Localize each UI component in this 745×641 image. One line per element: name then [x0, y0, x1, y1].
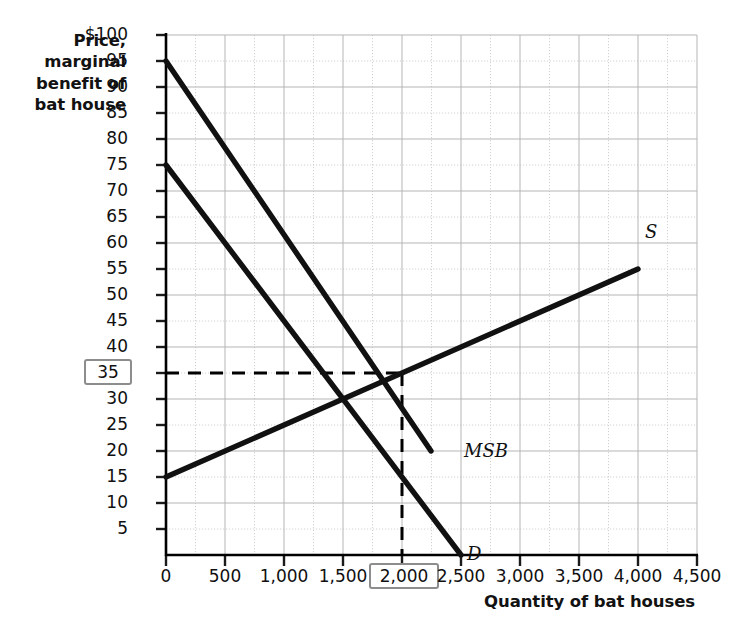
curve-msb — [166, 61, 431, 451]
y-tick-label: 10 — [66, 492, 128, 512]
x-tick-label: 4,500 — [662, 566, 732, 586]
y-tick-label: 30 — [66, 388, 128, 408]
x-tick-label: 1,500 — [308, 566, 378, 586]
y-tick-label: 20 — [66, 440, 128, 460]
y-tick-label: 5 — [66, 518, 128, 538]
y-tick-label: 70 — [66, 180, 128, 200]
y-tick-label: 25 — [66, 414, 128, 434]
y-tick-label: 45 — [66, 310, 128, 330]
y-tick-label: 80 — [66, 128, 128, 148]
curve-label-demand: D — [467, 543, 481, 564]
y-tick-label: 85 — [66, 102, 128, 122]
y-tick-label: 90 — [66, 76, 128, 96]
y-tick-label: 65 — [66, 206, 128, 226]
y-tick-label: 55 — [66, 258, 128, 278]
y-tick-label: 95 — [66, 50, 128, 70]
x-axis-title: Quantity of bat houses — [430, 591, 695, 612]
y-tick-label-highlighted: 35 — [84, 359, 132, 385]
curve-label-supply: S — [645, 221, 657, 242]
y-axis-ticks — [156, 35, 166, 529]
curve-demand — [166, 165, 461, 555]
y-tick-label: 15 — [66, 466, 128, 486]
y-tick-label: 40 — [66, 336, 128, 356]
y-tick-label: $100 — [66, 24, 128, 44]
y-tick-label: 50 — [66, 284, 128, 304]
y-tick-label: 60 — [66, 232, 128, 252]
economics-chart-figure: Price, marginal benefit of bat house Qua… — [0, 0, 745, 641]
y-tick-label: 75 — [66, 154, 128, 174]
curve-label-msb: MSB — [464, 440, 508, 461]
